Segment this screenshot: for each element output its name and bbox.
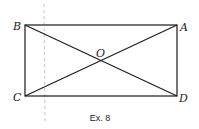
label-o: O (96, 47, 105, 60)
rectangle-diagram: B A C D O Ex. 8 (0, 0, 199, 129)
figure-caption: Ex. 8 (90, 113, 111, 123)
label-a: A (179, 21, 188, 34)
label-c: C (13, 91, 22, 104)
label-b: B (12, 20, 21, 33)
scan-artifact-line (44, 4, 45, 122)
label-d: D (178, 92, 188, 105)
